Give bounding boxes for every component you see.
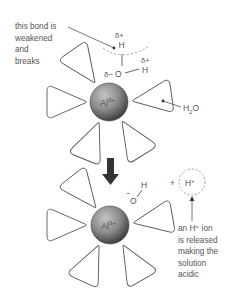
caption-line: weakened (15, 33, 56, 45)
caption-line: making the (178, 246, 218, 258)
proton-pointer-arrowhead (190, 196, 195, 201)
bond-annotation-pointer (68, 27, 114, 48)
water-ligand-lower-left (69, 117, 113, 165)
hydroxide-hydrogen-label: H (141, 180, 147, 190)
proton-release-caption: an H⁺ ion is released making the solutio… (178, 223, 218, 281)
caption-line: breaks (15, 56, 56, 68)
bond-breaks-caption: this bond is weakened and breaks (15, 21, 56, 67)
caption-line: and (15, 44, 56, 56)
water-formula-label: H2O (183, 103, 199, 115)
caption-line: solution (178, 258, 218, 270)
water-ligand-right-2 (131, 201, 175, 239)
caption-line: this bond is (15, 21, 56, 33)
plus-sign: + (170, 178, 175, 188)
hydroxide-oxygen-label: O (130, 196, 137, 206)
hydroxide-o-h-bond (137, 190, 142, 197)
h-top-label: H (119, 40, 125, 50)
top-complex: Al3+ δ− O H δ+ H δ+ H2O (47, 27, 199, 165)
o-h-bond-right (125, 69, 139, 73)
bond-annotation-dot (113, 47, 116, 50)
water-ligand-lower-left-2 (68, 239, 113, 288)
delta-minus-label: δ− (104, 70, 113, 79)
oxygen-label: O (115, 69, 122, 79)
water-ligand-lower-right (109, 113, 157, 163)
released-proton-label: H+ (185, 178, 194, 189)
water-ligand-left (47, 86, 87, 118)
caption-line: an H⁺ ion (178, 223, 218, 235)
h-right-label: H (142, 65, 148, 75)
water-ligand-lower-right-2 (110, 238, 157, 288)
water-ligand-left-2 (47, 209, 87, 241)
caption-line: is released (178, 235, 218, 247)
caption-line: acidic (178, 269, 218, 281)
bond-breaking-dashed-arc (103, 47, 148, 55)
water-label-dot (162, 100, 165, 103)
delta-plus-top-label: δ+ (115, 31, 124, 40)
water-ligand-upper-left (59, 41, 108, 91)
thick-down-arrow-icon (102, 158, 119, 185)
water-ligand-right (130, 80, 174, 117)
delta-plus-right-label: δ+ (141, 56, 150, 65)
